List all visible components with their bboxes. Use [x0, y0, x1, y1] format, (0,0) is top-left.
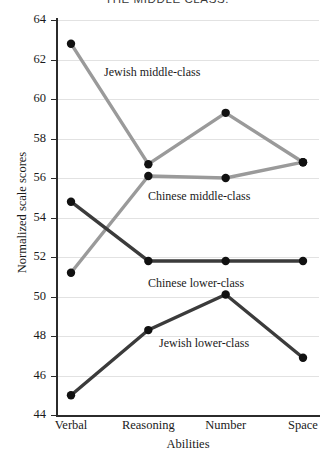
- y-axis-tick-label: 54: [6, 211, 46, 224]
- y-axis-tick-label: 58: [6, 132, 46, 145]
- gridline: [57, 139, 319, 140]
- y-axis-tick: [51, 376, 57, 377]
- gridline: [57, 297, 319, 298]
- chart-figure: THE MIDDLE CLASS. Normalized scale score…: [0, 0, 334, 457]
- x-axis-line: [56, 415, 320, 417]
- y-axis-tick: [51, 99, 57, 100]
- y-axis-tick-label: 60: [6, 92, 46, 105]
- y-axis-tick: [51, 218, 57, 219]
- y-axis-tick-label: 64: [6, 13, 46, 26]
- gridline: [57, 376, 319, 377]
- y-axis-tick: [51, 178, 57, 179]
- y-axis-tick: [51, 60, 57, 61]
- plot-area: [57, 20, 319, 415]
- y-axis-tick: [51, 336, 57, 337]
- series-label-chinese-middle-class: Chinese middle-class: [148, 190, 250, 202]
- series-label-chinese-lower-class: Chinese lower-class: [148, 277, 244, 289]
- y-axis-tick-label: 46: [6, 369, 46, 382]
- x-axis-tick-label: Space: [258, 419, 334, 432]
- gridline: [57, 257, 319, 258]
- x-axis-title: Abilities: [56, 437, 320, 452]
- y-axis-tick-label: 50: [6, 290, 46, 303]
- gridline: [57, 20, 319, 21]
- gridline: [57, 99, 319, 100]
- y-axis-tick: [51, 257, 57, 258]
- gridline: [57, 60, 319, 61]
- y-axis-tick-label: 48: [6, 329, 46, 342]
- y-axis-tick: [51, 415, 57, 416]
- series-label-jewish-middle-class: Jewish middle-class: [104, 66, 200, 78]
- series-label-jewish-lower-class: Jewish lower-class: [159, 337, 249, 349]
- gridline: [57, 178, 319, 179]
- chart-title: THE MIDDLE CLASS.: [0, 0, 334, 5]
- y-axis-tick-label: 62: [6, 53, 46, 66]
- y-axis-tick-label: 56: [6, 171, 46, 184]
- y-axis-tick: [51, 139, 57, 140]
- gridline: [57, 218, 319, 219]
- y-axis-tick: [51, 20, 57, 21]
- y-axis-tick-label: 52: [6, 250, 46, 263]
- y-axis-tick: [51, 297, 57, 298]
